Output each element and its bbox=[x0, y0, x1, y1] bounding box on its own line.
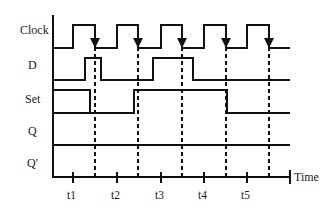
falling-edge-arrow-icon bbox=[177, 38, 187, 48]
falling-edge-arrow-icon bbox=[133, 38, 143, 48]
falling-edge-arrow-icon bbox=[90, 38, 100, 48]
tick-label-t1: t1 bbox=[67, 189, 76, 201]
signal-label-d: D bbox=[28, 58, 37, 72]
set-waveform bbox=[53, 90, 290, 113]
falling-edge-arrow-icon bbox=[264, 38, 274, 48]
signal-label-q: Q bbox=[28, 124, 37, 138]
tick-label-t3: t3 bbox=[155, 189, 164, 201]
tick-label-t2: t2 bbox=[111, 189, 120, 201]
tick-label-t5: t5 bbox=[241, 189, 250, 201]
falling-edge-arrow-icon bbox=[221, 38, 231, 48]
signal-label-set: Set bbox=[25, 92, 41, 106]
d-waveform bbox=[53, 58, 290, 80]
signal-label-clock: Clock bbox=[20, 23, 49, 37]
clock-waveform bbox=[53, 25, 290, 48]
timing-diagram: Clock D Set Q Q' bbox=[0, 0, 335, 213]
time-axis-label: Time bbox=[294, 170, 319, 184]
tick-label-t4: t4 bbox=[198, 189, 207, 201]
signal-label-q-prime: Q' bbox=[27, 156, 38, 170]
